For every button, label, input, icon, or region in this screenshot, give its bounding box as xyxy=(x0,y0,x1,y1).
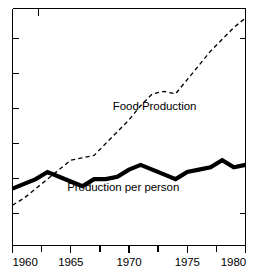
x-axis-labels: 1960 1965 1970 1975 1980 xyxy=(13,256,247,268)
annotation-production-per-person: Production per person xyxy=(67,181,179,193)
x-tick-label-1975: 1975 xyxy=(175,256,200,268)
chart-container: Food Production Production per person 19… xyxy=(0,0,259,273)
right-axis-ticks xyxy=(240,39,246,214)
annotation-food-production: Food Production xyxy=(113,100,197,112)
x-tick-label-1970: 1970 xyxy=(116,256,141,268)
x-axis-ticks xyxy=(13,246,246,253)
x-tick-label-1980: 1980 xyxy=(221,256,246,268)
plot-frame xyxy=(13,9,246,246)
line-chart: Food Production Production per person 19… xyxy=(0,0,259,273)
x-tick-label-1965: 1965 xyxy=(58,256,83,268)
x-tick-label-1960: 1960 xyxy=(13,256,38,268)
